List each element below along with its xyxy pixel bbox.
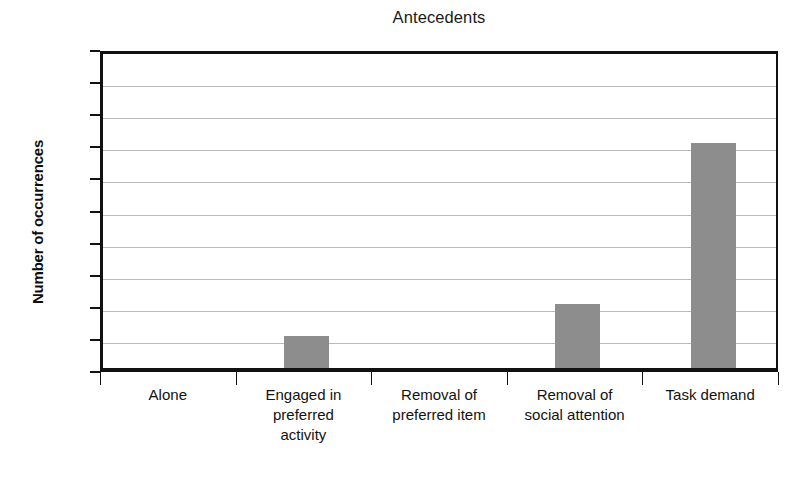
y-axis-tick-mark <box>90 275 100 277</box>
y-axis-tick-mark <box>90 50 100 52</box>
y-axis-tick-mark <box>90 371 100 373</box>
gridline <box>103 311 776 312</box>
gridline <box>103 279 776 280</box>
x-axis-tick-mark <box>371 372 372 385</box>
x-axis-label-line: social attention <box>507 405 643 425</box>
bar-chart-figure: Antecedents Number of occurrences 012345… <box>0 0 806 484</box>
x-axis-category-label: Engaged inpreferredactivity <box>236 385 372 445</box>
y-axis-tick-mark <box>90 114 100 116</box>
y-axis-tick-mark <box>90 211 100 213</box>
gridline <box>103 150 776 151</box>
x-axis-label-line: preferred item <box>371 405 507 425</box>
x-axis-tick-mark <box>236 372 237 385</box>
x-axis-label-line: Engaged in <box>236 385 372 405</box>
x-axis-label-line: Removal of <box>507 385 643 405</box>
x-axis-category-label: Task demand <box>642 385 778 405</box>
x-axis-label-line: activity <box>236 425 372 445</box>
plot-area <box>100 51 778 372</box>
x-axis-label-line: Alone <box>100 385 236 405</box>
bar <box>284 336 329 368</box>
y-axis-tick-mark <box>90 146 100 148</box>
x-axis-tick-mark <box>507 372 508 385</box>
x-axis-label-line: preferred <box>236 405 372 425</box>
y-axis-tick-mark <box>90 307 100 309</box>
y-axis-tick-mark <box>90 178 100 180</box>
x-axis-label-line: Removal of <box>371 385 507 405</box>
gridline <box>103 215 776 216</box>
bar <box>555 304 600 368</box>
gridline <box>103 247 776 248</box>
y-axis-tick-mark <box>90 82 100 84</box>
x-axis-label-line: Task demand <box>642 385 778 405</box>
x-axis-category-label: Removal ofpreferred item <box>371 385 507 425</box>
gridline <box>103 118 776 119</box>
x-axis-tick-mark <box>100 372 101 385</box>
gridline <box>103 343 776 344</box>
x-axis-category-label: Removal ofsocial attention <box>507 385 643 425</box>
chart-title: Antecedents <box>100 8 778 27</box>
bar <box>691 143 736 368</box>
gridline <box>103 182 776 183</box>
gridline <box>103 86 776 87</box>
y-axis-tick-mark <box>90 243 100 245</box>
x-axis-tick-mark <box>642 372 643 385</box>
y-axis-title: Number of occurrences <box>29 122 46 322</box>
x-axis-tick-mark <box>778 372 779 385</box>
y-axis-tick-mark <box>90 339 100 341</box>
x-axis-category-label: Alone <box>100 385 236 405</box>
